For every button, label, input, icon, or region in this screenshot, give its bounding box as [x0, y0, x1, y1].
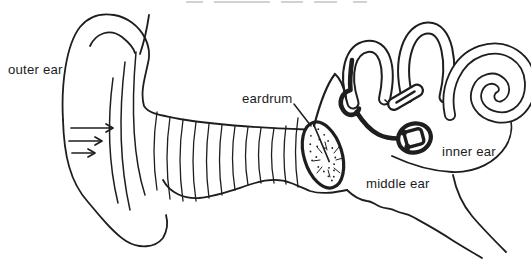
pinna-lower-outline [63, 120, 167, 246]
ear-anatomy-figure: outer ear eardrum middle ear inner ear [0, 0, 531, 263]
ear-anatomy-diagram: outer ear eardrum middle ear inner ear [0, 0, 531, 263]
concha-curve [109, 78, 118, 203]
eardrum-shape [295, 117, 351, 193]
sound-arrow [72, 149, 95, 157]
concha-curve [121, 62, 130, 210]
label-inner-ear: inner ear [442, 144, 496, 159]
horizontal-canal-capsule [394, 91, 417, 105]
pinna-upper-outline [63, 14, 306, 129]
sound-arrow [69, 137, 102, 145]
eardrum-leader-line [294, 104, 311, 126]
sound-wave-arrows [69, 124, 113, 157]
label-eardrum: eardrum [242, 91, 293, 106]
label-outer-ear: outer ear [8, 62, 63, 77]
stapes [394, 119, 434, 156]
sound-arrow [71, 124, 113, 132]
helix-inner-arc [90, 32, 135, 53]
cochlea-spiral [449, 49, 531, 118]
pinna-outline [63, 14, 306, 246]
label-middle-ear: middle ear [366, 176, 430, 191]
concha-curve [133, 52, 145, 195]
